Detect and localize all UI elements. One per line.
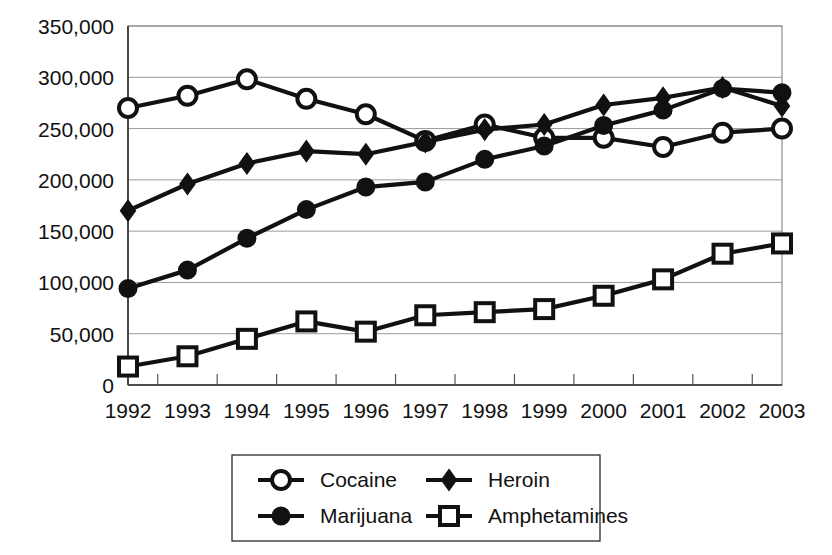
marker-filled-circle	[120, 281, 136, 297]
marker-open-circle	[654, 138, 672, 156]
marker-open-circle	[773, 120, 791, 138]
gridlines	[128, 26, 782, 334]
marker-open-square	[178, 347, 196, 365]
marker-filled-diamond	[122, 202, 135, 220]
series-amphetamines	[119, 234, 791, 375]
x-axis-tick-label: 1997	[402, 399, 449, 422]
data-series-layer	[119, 70, 791, 375]
legend-label: Marijuana	[320, 504, 413, 527]
x-axis-tick-label: 2002	[699, 399, 746, 422]
x-axis-tick-label: 1999	[521, 399, 568, 422]
marker-open-square	[654, 270, 672, 288]
marker-open-square	[440, 507, 458, 525]
plot-border	[128, 26, 782, 385]
y-axis-tick-label: 50,000	[50, 323, 114, 346]
marker-open-circle	[714, 124, 732, 142]
y-axis-tick-label: 250,000	[38, 118, 114, 141]
x-axis-tick-label: 2001	[640, 399, 687, 422]
marker-filled-circle	[536, 138, 552, 154]
line-chart: 050,000100,000150,000200,000250,000300,0…	[0, 0, 832, 555]
marker-open-circle	[297, 90, 315, 108]
marker-filled-circle	[596, 117, 612, 133]
legend-entry-amphetamines[interactable]: Amphetamines	[426, 504, 628, 527]
x-axis-tick-label: 1996	[342, 399, 389, 422]
marker-open-square	[714, 245, 732, 263]
marker-open-square	[119, 358, 137, 376]
marker-filled-circle	[239, 230, 255, 246]
marker-filled-diamond	[181, 175, 194, 193]
chart-figure: 050,000100,000150,000200,000250,000300,0…	[0, 0, 832, 555]
legend-entry-cocaine[interactable]: Cocaine	[258, 468, 397, 491]
marker-open-square	[416, 306, 434, 324]
y-axis-tick-label: 150,000	[38, 220, 114, 243]
plot-area-border	[128, 26, 782, 385]
x-axis-tick-label: 1995	[283, 399, 330, 422]
marker-open-square	[238, 330, 256, 348]
x-axis-tick-label: 2000	[580, 399, 627, 422]
y-axis-tick-label: 350,000	[38, 15, 114, 38]
marker-filled-circle	[774, 85, 790, 101]
y-axis-tick-label: 300,000	[38, 66, 114, 89]
series-marijuana	[120, 81, 790, 297]
marker-open-square	[535, 300, 553, 318]
marker-open-circle	[119, 99, 137, 117]
marker-open-square	[595, 287, 613, 305]
x-axis-tickmarks	[158, 374, 753, 385]
marker-filled-circle	[298, 202, 314, 218]
marker-filled-circle	[715, 81, 731, 97]
marker-open-square	[773, 234, 791, 252]
series-cocaine	[119, 70, 791, 156]
marker-open-circle	[272, 471, 290, 489]
marker-open-square	[357, 323, 375, 341]
marker-filled-diamond	[597, 96, 610, 114]
series-line-amphetamines	[128, 243, 782, 366]
marker-filled-circle	[273, 508, 289, 524]
x-axis-tick-label: 1998	[461, 399, 508, 422]
marker-filled-circle	[417, 174, 433, 190]
legend-entry-marijuana[interactable]: Marijuana	[258, 504, 413, 527]
series-line-marijuana	[128, 89, 782, 289]
marker-open-circle	[238, 70, 256, 88]
x-axis-tick-label: 1994	[224, 399, 271, 422]
marker-filled-circle	[477, 151, 493, 167]
series-line-heroin	[128, 88, 782, 211]
marker-open-square	[297, 312, 315, 330]
y-axis-tick-labels: 050,000100,000150,000200,000250,000300,0…	[38, 15, 114, 397]
y-axis-tick-label: 100,000	[38, 271, 114, 294]
marker-open-circle	[357, 105, 375, 123]
legend-label: Amphetamines	[488, 504, 628, 527]
marker-filled-circle	[655, 102, 671, 118]
marker-filled-diamond	[240, 154, 253, 172]
marker-filled-circle	[179, 262, 195, 278]
marker-filled-circle	[358, 179, 374, 195]
marker-open-square	[476, 303, 494, 321]
y-axis-tick-label: 200,000	[38, 169, 114, 192]
y-axis-tick-label: 0	[102, 374, 114, 397]
marker-filled-diamond	[300, 142, 313, 160]
x-axis-tick-label: 2003	[759, 399, 806, 422]
x-axis-tick-label: 1992	[105, 399, 152, 422]
chart-legend: CocaineHeroinMarijuanaAmphetamines	[232, 455, 628, 541]
legend-label: Heroin	[488, 468, 550, 491]
x-axis-tick-label: 1993	[164, 399, 211, 422]
x-axis-tick-labels: 1992199319941995199619971998199920002001…	[105, 399, 806, 422]
marker-filled-diamond	[359, 145, 372, 163]
marker-open-circle	[178, 87, 196, 105]
legend-label: Cocaine	[320, 468, 397, 491]
